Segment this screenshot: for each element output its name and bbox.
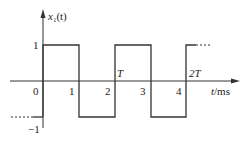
y-tick-neg1: −1 (28, 123, 40, 135)
x-tick-1: 1 (69, 85, 75, 97)
x-tick-0: 0 (33, 85, 39, 97)
x-axis-arrow-icon (231, 79, 240, 84)
y-tick-1: 1 (33, 39, 39, 51)
x-tick-2: 2 (105, 85, 111, 97)
period-T-label: T (117, 67, 124, 79)
y-axis-arrow-icon (41, 9, 46, 18)
x-tick-3: 3 (140, 85, 146, 97)
period-2T-label: 2T (189, 67, 202, 79)
x-axis-label: t/ms (211, 85, 230, 97)
square-wave-plot: x1(t) 1 −1 0 1 2 3 4 T 2T t/ms (0, 0, 247, 145)
x-tick-4: 4 (176, 85, 182, 97)
y-axis-label: x1(t) (47, 10, 67, 24)
